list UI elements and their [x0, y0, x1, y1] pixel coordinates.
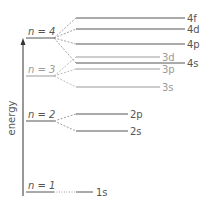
- connectors-n2: [54, 114, 76, 131]
- sublevel-4s-label: 4s: [187, 58, 199, 69]
- sublevel-4f-label: 4f: [187, 13, 197, 24]
- connector-3s: [54, 76, 76, 87]
- connectors-n3: [54, 57, 76, 87]
- sublevel-3s: 3s: [76, 82, 174, 93]
- connector-3p: [54, 69, 76, 76]
- sublevel-1s: 1s: [76, 187, 108, 198]
- sublevel-4p-label: 4p: [187, 39, 200, 50]
- sublevel-4d: 4d: [76, 24, 200, 35]
- shell-n2-label: n = 2: [28, 109, 55, 120]
- sublevel-3p-label: 3p: [162, 64, 175, 75]
- shell-n1: n = 1: [26, 180, 55, 192]
- energy-axis-label: energy: [6, 100, 17, 135]
- sublevel-4p: 4p: [76, 39, 200, 50]
- sublevel-2s-label: 2s: [130, 126, 142, 137]
- connector-4s: [54, 38, 76, 63]
- sublevel-1s-label: 1s: [96, 187, 108, 198]
- sublevel-3p: 3p: [76, 64, 175, 75]
- energy-axis-arrowhead: [21, 38, 26, 45]
- shell-n3-label: n = 3: [28, 64, 55, 75]
- connector-2s: [54, 121, 76, 131]
- connector-4f: [54, 18, 76, 38]
- connectors-n4: [54, 18, 76, 63]
- sublevel-2p-label: 2p: [130, 109, 143, 120]
- sublevel-4f: 4f: [76, 13, 197, 24]
- shell-n3: n = 3: [26, 64, 55, 76]
- shell-n4-label: n = 4: [28, 26, 55, 37]
- connector-4p: [54, 38, 76, 44]
- sublevel-4s: 4s: [76, 58, 199, 69]
- sublevel-3s-label: 3s: [162, 82, 174, 93]
- shell-n2: n = 2: [26, 109, 55, 121]
- connector-2p: [54, 114, 76, 121]
- connector-3d: [54, 57, 76, 76]
- connector-4d: [54, 29, 76, 38]
- sublevel-4d-label: 4d: [187, 24, 200, 35]
- shell-n4: n = 4: [26, 26, 55, 38]
- sublevel-3d: 3d: [76, 52, 175, 63]
- shell-n1-label: n = 1: [28, 180, 55, 191]
- energy-level-diagram: energy n = 4 n = 3 n = 2 n = 1 4f: [0, 0, 211, 204]
- sublevel-2s: 2s: [76, 126, 142, 137]
- sublevel-3d-label: 3d: [162, 52, 175, 63]
- sublevel-2p: 2p: [76, 109, 143, 120]
